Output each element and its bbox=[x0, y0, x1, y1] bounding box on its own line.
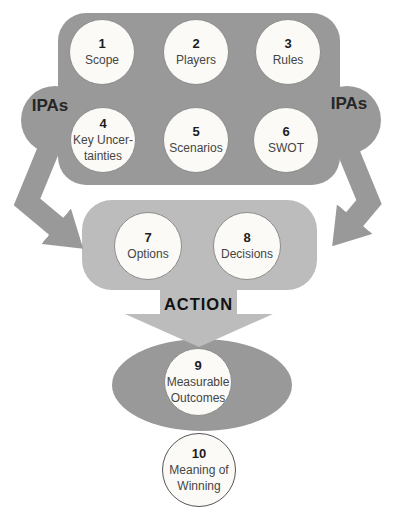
right-ipa-arrow-icon bbox=[346, 146, 369, 220]
node-label: Scenarios bbox=[169, 141, 222, 157]
node-number: 4 bbox=[99, 116, 106, 131]
node-label: Key Uncer- tainties bbox=[73, 133, 133, 165]
node-label: Measurable Outcomes bbox=[167, 375, 230, 407]
node-label: Rules bbox=[273, 53, 304, 69]
ipas-left-label: IPAs bbox=[18, 96, 82, 116]
node-scope: 1 Scope bbox=[69, 19, 135, 85]
node-label: SWOT bbox=[268, 141, 304, 157]
node-number: 6 bbox=[282, 124, 289, 139]
node-players: 2 Players bbox=[163, 19, 229, 85]
node-number: 7 bbox=[144, 230, 151, 245]
node-meaning-of-winning: 10 Meaning of Winning bbox=[162, 433, 236, 507]
node-measurable-outcomes: 9 Measurable Outcomes bbox=[164, 348, 232, 416]
node-label: Meaning of Winning bbox=[169, 463, 228, 495]
diagram-canvas: IPAs IPAs ACTION 1 Scope 2 Players 3 Rul… bbox=[0, 0, 396, 517]
ipas-right-label: IPAs bbox=[317, 94, 381, 114]
node-swot: 6 SWOT bbox=[253, 107, 319, 173]
node-label: Scope bbox=[85, 53, 119, 69]
node-number: 2 bbox=[192, 36, 199, 51]
node-label: Options bbox=[127, 247, 168, 263]
node-number: 10 bbox=[192, 446, 206, 461]
node-rules: 3 Rules bbox=[255, 19, 321, 85]
node-decisions: 8 Decisions bbox=[213, 212, 281, 280]
node-number: 9 bbox=[194, 358, 201, 373]
node-number: 8 bbox=[243, 230, 250, 245]
node-number: 5 bbox=[192, 124, 199, 139]
node-number: 1 bbox=[98, 36, 105, 51]
left-ipa-arrow-icon bbox=[27, 146, 57, 227]
node-options: 7 Options bbox=[114, 212, 182, 280]
node-key-uncertainties: 4 Key Uncer- tainties bbox=[70, 107, 136, 173]
action-label: ACTION bbox=[148, 295, 249, 314]
node-scenarios: 5 Scenarios bbox=[163, 107, 229, 173]
node-label: Decisions bbox=[221, 247, 273, 263]
node-label: Players bbox=[176, 53, 216, 69]
node-number: 3 bbox=[284, 36, 291, 51]
